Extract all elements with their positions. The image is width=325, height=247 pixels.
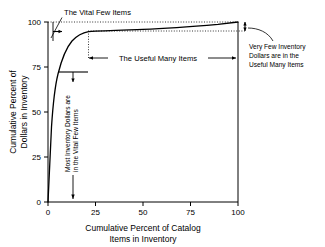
x-axis-title-line2: Items in Inventory xyxy=(109,234,177,244)
y-tick-label-0: 0 xyxy=(37,198,42,207)
y-tick-label-100: 100 xyxy=(28,18,42,27)
y-tick-label-75: 75 xyxy=(32,63,41,72)
x-tick-label-75: 75 xyxy=(186,208,195,217)
annotation-useful-many-items-label: The Useful Many Items xyxy=(119,54,197,63)
y-axis-title-line1: Cumulative Percent of xyxy=(8,70,18,154)
annotation-most-dollars-line1: Most Inventory Dollars are xyxy=(64,95,72,172)
x-tick-label-0: 0 xyxy=(46,208,51,217)
pareto-inventory-chart: 100 75 50 25 0 0 25 50 75 100 The Vital … xyxy=(0,0,325,247)
y-tick-label-25: 25 xyxy=(32,153,41,162)
annotation-very-few-line2: Dollars are in the xyxy=(249,52,299,59)
x-tick-label-25: 25 xyxy=(91,208,100,217)
x-tick-label-100: 100 xyxy=(231,208,245,217)
annotation-vital-few-items-label: The Vital Few Items xyxy=(64,8,131,17)
y-axis-title-line2: Dollars in Inventory xyxy=(19,75,29,149)
x-tick-label-50: 50 xyxy=(139,208,148,217)
annotation-very-few-line1: Very Few Inventory xyxy=(249,43,306,51)
y-tick-label-50: 50 xyxy=(32,108,41,117)
chart-svg: 100 75 50 25 0 0 25 50 75 100 The Vital … xyxy=(0,0,325,247)
annotation-most-dollars-line2: in the Vital Few Items xyxy=(72,108,79,172)
annotation-very-few-line3: Useful Many Items xyxy=(249,61,304,69)
x-axis-title-line1: Cumulative Percent of Catalog xyxy=(85,223,201,233)
